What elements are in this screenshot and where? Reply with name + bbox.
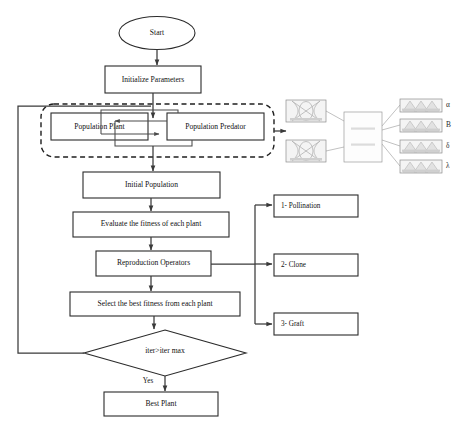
node-initialize-parameters: Initialize Parameters [105,66,201,93]
inset-offspring-beta: B [400,119,451,132]
node-operator-clone-label: 2- Clone [281,261,306,269]
inset-parent-1 [286,100,326,122]
inset-edge-middle-to-offspring2 [382,125,400,130]
node-population-plant: Population Plant [51,113,148,140]
node-initial-population-label: Initial Population [125,180,178,189]
node-evaluate-label: Evaluate the fitness of each plant [101,219,202,228]
node-population-predator: Population Predator [167,113,264,140]
inset-parent-2 [286,140,326,162]
node-operator-pollination: 1- Pollination [274,195,358,217]
node-initialize-label: Initialize Parameters [122,75,185,84]
inset-recombination-unit [344,112,382,162]
node-operator-graft-label: 3- Graft [281,320,304,328]
node-select-best-label: Select the best fitness from each plant [97,299,213,308]
node-start: Start [119,17,195,50]
node-evaluate-fitness: Evaluate the fitness of each plant [73,212,229,237]
node-initial-population: Initial Population [83,172,220,198]
inset-offspring-delta: δ [400,140,450,153]
inset-offspring-alpha: α [400,99,450,112]
node-select-best-fitness: Select the best fitness from each plant [70,292,240,316]
node-decision-label: iter>iter max [145,346,185,355]
node-start-label: Start [150,28,165,37]
flowchart-canvas: Start Initialize Parameters Population P… [0,0,460,428]
node-population-plant-label: Population Plant [74,122,125,131]
node-operator-pollination-label: 1- Pollination [281,202,321,210]
inset-edge-parent1-to-middle [326,111,344,121]
node-reproduction-label: Reproduction Operators [117,258,190,267]
inset-offspring-delta-label: δ [446,141,450,150]
node-operator-graft: 3- Graft [274,313,358,335]
inset-offspring-lambda-label: λ [446,161,450,170]
node-decision-iteration: iter>iter max [84,330,246,376]
inset-illustration: α B [286,99,451,173]
inset-edge-parent2-to-middle [326,147,344,151]
node-population-predator-label: Population Predator [185,122,246,131]
inset-offspring-lambda: λ [400,160,450,173]
edge-label-yes: Yes [143,377,154,385]
inset-offspring-alpha-label: α [446,100,450,109]
node-reproduction-operators: Reproduction Operators [96,251,211,276]
inset-edge-middle-to-offspring4 [382,144,400,166]
node-best-plant: Best Plant [104,392,218,416]
inset-offspring-beta-label: B [446,120,451,129]
node-best-plant-label: Best Plant [145,399,177,408]
inset-edge-middle-to-offspring3 [382,140,400,146]
node-operator-clone: 2- Clone [274,254,358,276]
inset-edge-middle-to-offspring1 [382,105,400,126]
